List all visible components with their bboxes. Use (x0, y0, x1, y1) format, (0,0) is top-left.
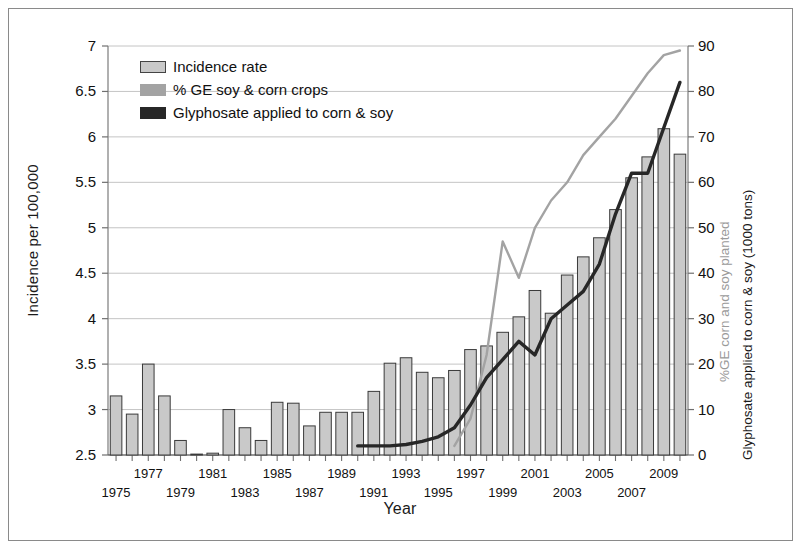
y-tick-label-left: 5 (52, 220, 96, 235)
x-tick-label: 1991 (351, 486, 397, 499)
y-tick-label-left: 6.5 (52, 83, 96, 98)
x-tick-label: 1981 (190, 467, 236, 480)
x-tick-label: 1985 (254, 467, 300, 480)
x-tick-label: 1995 (415, 486, 461, 499)
y-tick-label-left: 4.5 (52, 265, 96, 280)
chart-figure: Incidence per 100,000 Year %GE corn and … (0, 0, 803, 560)
x-tick-label: 2003 (544, 486, 590, 499)
y-tick-label-left: 3.5 (52, 356, 96, 371)
y-tick-label-right: 90 (698, 38, 732, 53)
y-tick-label-left: 4 (52, 311, 96, 326)
y-tick-label-left: 6 (52, 129, 96, 144)
y-tick-label-right: 50 (698, 220, 732, 235)
legend-swatch-glyphosate (140, 107, 166, 119)
y-tick-label-right: 40 (698, 265, 732, 280)
x-tick-label: 1999 (480, 486, 526, 499)
y-tick-label-right: 20 (698, 356, 732, 371)
y-tick-label-right: 70 (698, 129, 732, 144)
x-tick-label: 1975 (93, 486, 139, 499)
x-tick-label: 2005 (576, 467, 622, 480)
legend-item-glyphosate: Glyphosate applied to corn & soy (140, 104, 393, 121)
legend-swatch-ge (140, 84, 166, 96)
y-tick-label-right: 60 (698, 174, 732, 189)
x-tick-label: 1983 (222, 486, 268, 499)
y-tick-label-left: 5.5 (52, 174, 96, 189)
y-tick-label-right: 80 (698, 83, 732, 98)
x-tick-label: 2007 (609, 486, 655, 499)
legend-item-ge: % GE soy & corn crops (140, 81, 328, 98)
x-tick-label: 1993 (383, 467, 429, 480)
y-tick-label-left: 7 (52, 38, 96, 53)
y-tick-label-right: 0 (698, 447, 732, 462)
legend-label-incidence: Incidence rate (173, 58, 267, 75)
y-tick-label-right: 30 (698, 311, 732, 326)
x-tick-label: 1979 (158, 486, 204, 499)
y-tick-label-left: 3 (52, 402, 96, 417)
y-tick-label-left: 2.5 (52, 447, 96, 462)
x-tick-label: 1977 (125, 467, 171, 480)
legend-label-glyphosate: Glyphosate applied to corn & soy (173, 104, 393, 121)
y-tick-label-right: 10 (698, 402, 732, 417)
x-tick-label: 2001 (512, 467, 558, 480)
x-tick-label: 1989 (319, 467, 365, 480)
x-tick-label: 1987 (286, 486, 332, 499)
legend-item-incidence: Incidence rate (140, 58, 267, 75)
x-tick-label: 2009 (641, 467, 687, 480)
legend-swatch-incidence (140, 61, 166, 73)
legend-label-ge: % GE soy & corn crops (173, 81, 328, 98)
x-tick-label: 1997 (448, 467, 494, 480)
